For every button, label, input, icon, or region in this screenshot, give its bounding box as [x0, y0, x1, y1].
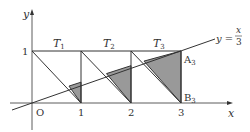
x-tick-2: 2	[128, 107, 134, 118]
svg-text:x: x	[236, 25, 241, 35]
origin-label: O	[36, 107, 44, 118]
x-axis-label: x	[228, 107, 235, 120]
svg-text:3: 3	[236, 37, 242, 47]
region-label-t1: T1	[53, 37, 65, 51]
y-axis-label: y	[22, 8, 30, 21]
shaded-region-2	[107, 66, 132, 103]
x-axis-arrow-icon	[227, 101, 233, 105]
svg-text:y =: y =	[215, 33, 233, 44]
diagram-canvas: y x O 1 2 3 1 T1 T2 T3 A3 B3 y = x 3	[0, 0, 250, 132]
diagonal-1	[32, 51, 81, 103]
y-tick-1: 1	[22, 46, 28, 57]
x-tick-3: 3	[178, 107, 184, 118]
point-label-a3: A3	[183, 54, 196, 67]
shaded-region-3	[144, 51, 181, 103]
x-tick-1: 1	[78, 107, 84, 118]
line-equation-label: y = x 3	[215, 25, 242, 47]
region-label-t3: T3	[153, 37, 165, 51]
region-label-t2: T2	[103, 37, 115, 51]
y-axis-arrow-icon	[30, 9, 34, 15]
